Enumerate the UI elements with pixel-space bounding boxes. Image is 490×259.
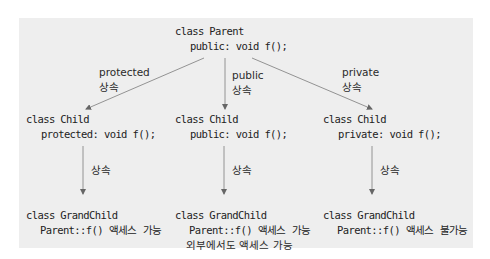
protected-child-member: protected: void f();	[41, 127, 155, 142]
inherit-word-protected: 상속	[99, 80, 119, 95]
private-child-inherit-word: 상속	[380, 163, 400, 178]
public-grandchild-note: Parent::f() 액세스 가능	[189, 223, 310, 238]
inherit-mode-protected: protected	[99, 65, 150, 79]
protected-child-class-name: class Child	[26, 112, 89, 127]
inherit-mode-private: private	[342, 65, 379, 79]
public-grandchild-note-external: 외부에서도 액세스 가능	[186, 238, 293, 253]
inherit-word-private: 상속	[342, 80, 362, 95]
private-child-member: private: void f();	[338, 127, 441, 142]
parent-member: public: void f();	[190, 39, 287, 54]
inherit-word-public: 상속	[232, 83, 252, 98]
inherit-mode-public: public	[232, 68, 264, 82]
public-grandchild-class-name: class GrandChild	[175, 208, 267, 223]
private-grandchild-note: Parent::f() 액세스 불가능	[337, 223, 468, 238]
private-child-class-name: class Child	[323, 112, 386, 127]
public-child-inherit-word: 상속	[232, 163, 252, 178]
protected-grandchild-class-name: class GrandChild	[26, 208, 118, 223]
public-child-member: public: void f();	[190, 127, 287, 142]
private-grandchild-class-name: class GrandChild	[323, 208, 415, 223]
parent-class-name: class Parent	[175, 24, 244, 39]
public-child-class-name: class Child	[175, 112, 238, 127]
protected-grandchild-note: Parent::f() 액세스 가능	[40, 223, 161, 238]
protected-child-inherit-word: 상속	[91, 163, 111, 178]
